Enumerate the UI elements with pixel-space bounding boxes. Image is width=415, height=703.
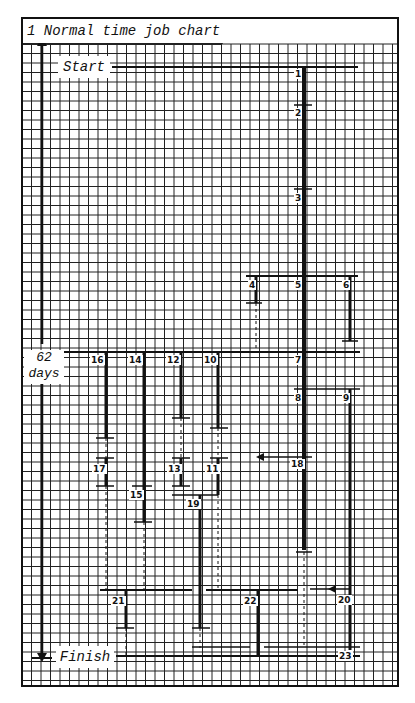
event-node-17: 17 (92, 464, 107, 474)
event-node-13: 13 (167, 464, 182, 474)
event-node-4: 4 (248, 280, 256, 290)
duration-value: 62 (24, 350, 64, 366)
finish-label: Finish (56, 646, 114, 668)
event-node-2: 2 (294, 108, 302, 118)
event-node-3: 3 (294, 193, 302, 203)
event-node-8: 8 (294, 393, 302, 403)
event-node-16: 16 (90, 355, 105, 365)
event-node-15: 15 (129, 490, 144, 500)
event-node-20: 20 (337, 595, 352, 605)
event-node-11: 11 (205, 464, 220, 474)
chart-title: 1 Normal time job chart (23, 19, 223, 43)
event-node-1: 1 (294, 69, 302, 79)
duration-unit: days (24, 366, 64, 382)
event-node-19: 19 (186, 499, 201, 509)
event-node-18: 18 (290, 459, 305, 469)
event-node-22: 22 (243, 596, 258, 606)
event-node-23: 23 (338, 651, 353, 661)
start-label: Start (58, 56, 110, 78)
event-node-6: 6 (342, 280, 350, 290)
event-node-7: 7 (294, 355, 302, 365)
event-node-14: 14 (128, 355, 143, 365)
duration-label: 62 days (24, 350, 64, 384)
event-node-21: 21 (111, 596, 126, 606)
event-node-12: 12 (166, 355, 181, 365)
event-node-9: 9 (342, 393, 350, 403)
event-node-5: 5 (294, 280, 302, 290)
event-node-10: 10 (203, 355, 218, 365)
